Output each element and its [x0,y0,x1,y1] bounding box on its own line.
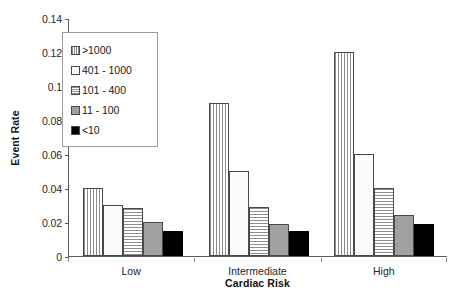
y-axis-tick-label: 0.06 [42,149,65,161]
legend-item[interactable]: 101 - 400 [71,80,157,100]
bar[interactable] [334,52,354,256]
x-axis-tick-mark [68,258,69,262]
legend-swatch-icon [71,46,80,55]
bar[interactable] [83,188,103,256]
x-axis-category: Low [68,258,194,278]
x-axis-tick-mark [321,258,322,262]
bar[interactable] [414,224,434,256]
x-axis-category-label: Intermediate [228,265,286,277]
x-axis-categories: LowIntermediateHigh [68,258,447,278]
y-axis-tick: 0.14 [42,13,69,25]
legend-item[interactable]: <10 [71,120,157,140]
x-axis-category: Intermediate [194,258,320,278]
legend-item-label: 101 - 400 [82,84,126,96]
bar[interactable] [249,207,269,256]
legend-item-label: <10 [82,124,100,136]
bar[interactable] [269,224,289,256]
x-axis-tick-mark [446,258,447,262]
y-axis-tick-mark [65,189,69,190]
bar[interactable] [354,154,374,256]
bar[interactable] [123,208,143,256]
y-axis-tick-mark [65,19,69,20]
y-axis-title-label: Event Rate [9,110,21,165]
y-axis-tick: 0.04 [42,183,69,195]
x-axis-tick-mark [194,258,195,262]
legend-item[interactable]: 11 - 100 [71,100,157,120]
y-axis-tick: 0.06 [42,149,69,161]
y-axis-title: Event Rate [8,19,22,257]
bar-chart: Event Rate 00.020.040.060.080.10.120.14 … [0,0,468,300]
y-axis-tick-label: 0.02 [42,217,65,229]
legend-item-label: 11 - 100 [82,104,119,116]
x-axis-title: Cardiac Risk [68,277,447,289]
bar[interactable] [209,103,229,256]
y-axis-tick-mark [65,223,69,224]
legend-item-label: >1000 [82,44,111,56]
bar-group [321,19,447,256]
bar-group [196,19,322,256]
legend-swatch-icon [71,126,80,135]
x-axis-category-label: High [373,265,395,277]
bar[interactable] [229,171,249,256]
legend-item-label: 401 - 1000 [82,64,132,76]
legend-swatch-icon [71,86,80,95]
legend-swatch-icon [71,106,80,115]
bar[interactable] [289,231,309,257]
legend-swatch-icon [71,66,80,75]
y-axis-tick: 0.02 [42,217,69,229]
y-axis-tick-mark [65,155,69,156]
y-axis-tick-label: 0.04 [42,183,65,195]
x-axis-category-label: Low [122,265,141,277]
bar[interactable] [374,188,394,256]
bar[interactable] [143,222,163,256]
legend-item[interactable]: >1000 [71,40,157,60]
y-axis-tick-label: 0.14 [42,13,65,25]
bar[interactable] [394,215,414,256]
y-axis-tick-label: 0 [56,251,65,263]
legend-item[interactable]: 401 - 1000 [71,60,157,80]
legend-items: >1000401 - 1000101 - 40011 - 100<10 [71,40,157,140]
x-axis-category: High [321,258,447,278]
legend: >1000401 - 1000101 - 40011 - 100<10 [62,32,158,147]
bar[interactable] [163,231,183,257]
bar[interactable] [103,205,123,256]
